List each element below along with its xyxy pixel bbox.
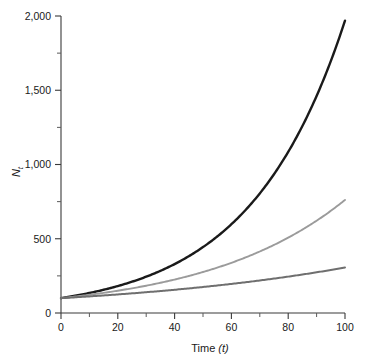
exponential-growth-chart: 05001,0001,5002,000020406080100 Nt Time … [0, 0, 365, 362]
chart-figure: 05001,0001,5002,000020406080100 Nt Time … [0, 0, 365, 362]
y-tick-label: 1,000 [25, 158, 51, 170]
data-series-group [61, 21, 345, 299]
tick-labels: 05001,0001,5002,000020406080100 [25, 10, 354, 333]
y-tick-label: 500 [33, 233, 51, 245]
y-tick-label: 0 [45, 307, 51, 319]
series-line-high-growth [61, 21, 345, 299]
x-axis-title: Time (t) [191, 342, 229, 354]
x-tick-label: 40 [169, 321, 181, 333]
y-tick-label: 2,000 [25, 10, 51, 22]
x-tick-label: 0 [58, 321, 64, 333]
svg-text:Time (t): Time (t) [191, 342, 229, 354]
series-line-medium-growth [61, 200, 345, 298]
x-tick-label: 100 [336, 321, 354, 333]
x-tick-label: 80 [282, 321, 294, 333]
svg-text:Nt: Nt [10, 166, 25, 177]
y-axis-title: Nt [10, 166, 25, 177]
x-tick-label: 20 [112, 321, 124, 333]
x-tick-label: 60 [226, 321, 238, 333]
y-tick-label: 1,500 [25, 84, 51, 96]
